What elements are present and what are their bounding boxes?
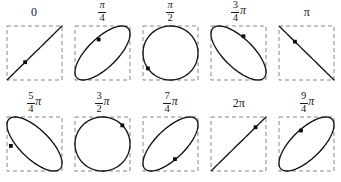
panel-plot bbox=[209, 115, 268, 173]
panel-grid: 0π4π234ππ54π32π74π2π94π bbox=[0, 0, 341, 182]
label-plain: 0 bbox=[31, 5, 37, 19]
panel-plot bbox=[141, 115, 200, 173]
fraction-denominator: 4 bbox=[27, 104, 34, 115]
phase-point-marker bbox=[23, 60, 27, 64]
panel-phase-label: π4 bbox=[98, 0, 107, 24]
panel-plot bbox=[277, 24, 336, 82]
lissajous-panel: 2π bbox=[205, 91, 273, 182]
plot-canvas bbox=[277, 24, 336, 82]
label-pi-symbol: π bbox=[172, 95, 178, 109]
lissajous-curve bbox=[143, 26, 198, 80]
plot-canvas bbox=[209, 24, 268, 82]
label-pi-symbol: π bbox=[240, 4, 246, 18]
panel-phase-label: 0 bbox=[31, 0, 37, 24]
plot-canvas bbox=[141, 24, 200, 82]
label-fraction: 74 bbox=[163, 91, 171, 114]
fraction-denominator: 4 bbox=[98, 13, 105, 24]
panel-phase-label: 94π bbox=[300, 91, 315, 115]
lissajous-curve bbox=[7, 117, 62, 171]
fraction-numerator: 7 bbox=[164, 91, 171, 102]
panel-plot bbox=[73, 115, 132, 173]
fraction-numerator: π bbox=[98, 0, 105, 11]
lissajous-panel: 94π bbox=[273, 91, 341, 182]
lissajous-curve bbox=[279, 117, 334, 171]
lissajous-figure-array: 0π4π234ππ54π32π74π2π94π bbox=[0, 0, 341, 182]
label-pi-symbol: π bbox=[308, 95, 314, 109]
label-fraction: 54 bbox=[27, 91, 35, 114]
panel-label-text: 74π bbox=[163, 91, 178, 114]
lissajous-curve bbox=[279, 26, 334, 80]
panel-phase-label: π2 bbox=[166, 0, 175, 24]
panel-label-text: 94π bbox=[300, 91, 315, 114]
panel-plot bbox=[5, 115, 64, 173]
panel-phase-label: 34π bbox=[231, 0, 246, 24]
plot-canvas bbox=[5, 24, 64, 82]
phase-point-marker bbox=[9, 144, 13, 148]
lissajous-panel: 34π bbox=[205, 0, 273, 91]
panel-phase-label: 54π bbox=[27, 91, 42, 115]
plot-canvas bbox=[5, 115, 64, 173]
fraction-denominator: 4 bbox=[232, 13, 239, 24]
fraction-denominator: 2 bbox=[167, 13, 174, 24]
lissajous-curve bbox=[7, 26, 62, 80]
phase-point-marker bbox=[254, 125, 258, 129]
plot-canvas bbox=[277, 115, 336, 173]
fraction-numerator: 5 bbox=[27, 91, 34, 102]
label-plain: 2π bbox=[233, 96, 245, 110]
label-fraction: π2 bbox=[166, 0, 174, 23]
panel-label-text: 54π bbox=[27, 91, 42, 114]
panel-phase-label: 32π bbox=[95, 91, 110, 115]
plot-canvas bbox=[209, 115, 268, 173]
panel-plot bbox=[141, 24, 200, 82]
phase-point-marker bbox=[120, 123, 124, 127]
lissajous-curve bbox=[143, 117, 198, 171]
lissajous-curve bbox=[211, 26, 266, 80]
label-fraction: π4 bbox=[98, 0, 106, 23]
fraction-denominator: 4 bbox=[164, 104, 171, 115]
lissajous-panel: 54π bbox=[0, 91, 68, 182]
lissajous-panel: 0 bbox=[0, 0, 68, 91]
label-fraction: 32 bbox=[95, 91, 103, 114]
lissajous-panel: 32π bbox=[68, 91, 136, 182]
plot-canvas bbox=[73, 24, 132, 82]
plot-canvas bbox=[73, 115, 132, 173]
lissajous-curve bbox=[75, 26, 130, 80]
fraction-numerator: π bbox=[167, 0, 174, 11]
fraction-denominator: 2 bbox=[95, 104, 102, 115]
panel-plot bbox=[277, 115, 336, 173]
plot-canvas bbox=[141, 115, 200, 173]
panel-label-text: 2π bbox=[233, 97, 245, 109]
lissajous-panel: 74π bbox=[136, 91, 204, 182]
phase-point-marker bbox=[299, 129, 303, 133]
fraction-denominator: 4 bbox=[300, 104, 307, 115]
label-fraction: 34 bbox=[231, 0, 239, 23]
panel-label-text: 32π bbox=[95, 91, 110, 114]
phase-point-marker bbox=[173, 157, 177, 161]
lissajous-panel: π4 bbox=[68, 0, 136, 91]
fraction-numerator: 3 bbox=[95, 91, 102, 102]
panel-phase-label: 2π bbox=[233, 91, 245, 115]
panel-label-text: 34π bbox=[231, 0, 246, 23]
panel-label-text: π2 bbox=[166, 0, 175, 23]
phase-point-marker bbox=[242, 34, 246, 38]
fraction-numerator: 9 bbox=[300, 91, 307, 102]
panel-plot bbox=[209, 24, 268, 82]
panel-label-text: 0 bbox=[31, 6, 37, 18]
phase-point-marker bbox=[293, 40, 297, 44]
fraction-numerator: 3 bbox=[232, 0, 239, 11]
lissajous-panel: π bbox=[273, 0, 341, 91]
label-plain: π bbox=[304, 5, 310, 19]
phase-point-marker bbox=[146, 66, 150, 70]
panel-label-text: π4 bbox=[98, 0, 107, 23]
panel-phase-label: π bbox=[304, 0, 310, 24]
panel-plot bbox=[5, 24, 64, 82]
lissajous-panel: π2 bbox=[136, 0, 204, 91]
phase-point-marker bbox=[97, 38, 101, 42]
lissajous-curve bbox=[211, 117, 266, 171]
label-pi-symbol: π bbox=[35, 95, 41, 109]
panel-phase-label: 74π bbox=[163, 91, 178, 115]
panel-plot bbox=[73, 24, 132, 82]
label-fraction: 94 bbox=[300, 91, 308, 114]
panel-label-text: π bbox=[304, 6, 310, 18]
label-pi-symbol: π bbox=[104, 95, 110, 109]
